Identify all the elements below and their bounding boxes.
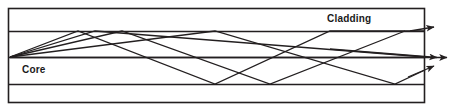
core-label: Core: [22, 64, 46, 75]
cladding-label: Cladding: [327, 13, 371, 24]
fiber-diagram-canvas: [0, 0, 476, 111]
fiber-ray-diagram-figure: Cladding Core: [0, 0, 476, 111]
